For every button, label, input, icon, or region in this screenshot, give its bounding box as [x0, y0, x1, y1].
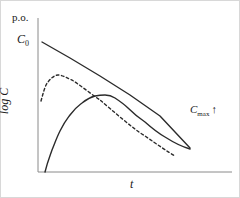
c-max-subscript: max [197, 110, 209, 118]
plot-canvas [0, 0, 240, 198]
up-arrow-icon: ↑ [211, 103, 217, 115]
figure-border [1, 1, 240, 198]
label-c-zero: C0 [17, 33, 29, 48]
curve-oral-fast-absorption [41, 75, 175, 156]
c-zero-subscript: 0 [25, 39, 29, 48]
curve-oral-slow-absorption [45, 95, 190, 172]
curve-iv-bolus-terminal [42, 42, 190, 148]
pharmacokinetics-figure: p.o. C0 log C Cmax↑ t [0, 0, 240, 198]
label-c-max: Cmax↑ [190, 104, 217, 118]
label-po: p.o. [12, 12, 29, 23]
x-axis-label: t [130, 178, 133, 190]
y-axis-label: log C [0, 88, 10, 114]
